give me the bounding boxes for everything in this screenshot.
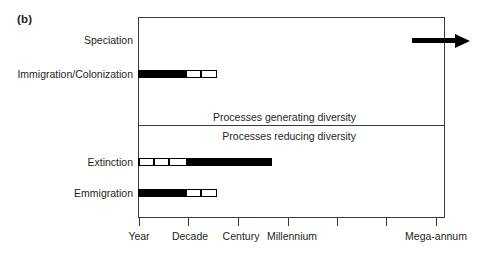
bar-immigration-colonization (138, 70, 217, 78)
figure-panel-b: (b) Speciation Immigration/Colonization … (0, 0, 485, 254)
row-label-extinction: Extinction (0, 156, 133, 168)
row-label-immigration-colonization: Immigration/Colonization (0, 68, 133, 80)
axis-label-year: Year (128, 230, 149, 242)
bar-gap (202, 71, 216, 76)
axis-tick-year (139, 218, 140, 226)
row-label-speciation: Speciation (0, 34, 133, 46)
axis-label-millennium: Millennium (267, 230, 317, 242)
panel-letter: (b) (17, 13, 32, 25)
section-divider-line (138, 125, 445, 126)
bar-gap (170, 159, 187, 164)
axis-tick-decade (188, 218, 189, 226)
speciation-arrow-head-icon (455, 34, 470, 48)
bar-emmigration (138, 189, 217, 197)
axis-tick-6 (386, 218, 387, 226)
bar-gap (140, 159, 153, 164)
caption-processes-reducing-diversity: Processes reducing diversity (0, 130, 356, 142)
bar-gap (202, 190, 216, 195)
axis-label-mega-annum: Mega-annum (405, 230, 467, 242)
axis-tick-millennium (288, 218, 289, 226)
axis-tick-5 (337, 218, 338, 226)
row-label-emmigration: Emmigration (0, 187, 133, 199)
bar-gap (187, 190, 200, 195)
bar-extinction (138, 158, 272, 166)
axis-tick-mega-annum (436, 218, 437, 226)
caption-processes-generating-diversity: Processes generating diversity (0, 111, 356, 123)
axis-label-decade: Decade (172, 230, 208, 242)
axis-label-century: Century (223, 230, 260, 242)
bar-gap (155, 159, 168, 164)
bar-gap (187, 71, 200, 76)
axis-tick-century (238, 218, 239, 226)
